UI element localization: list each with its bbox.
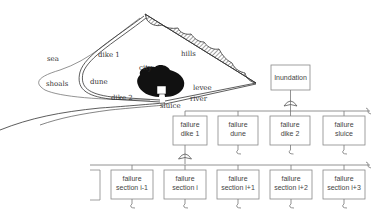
svg-text:failure: failure xyxy=(122,175,141,182)
level2-item-section-i+2: failure section i+2 xyxy=(270,165,312,208)
svg-text:dune: dune xyxy=(230,130,246,137)
label-levee: levee xyxy=(193,84,212,92)
svg-text:dike 2: dike 2 xyxy=(281,130,300,137)
label-dike-2: dike 2 xyxy=(111,94,133,102)
level1-item-dike2: failure dike 2 xyxy=(270,111,310,154)
svg-text:failure: failure xyxy=(228,175,247,182)
svg-text:failure: failure xyxy=(334,175,353,182)
continuation-icon xyxy=(290,199,294,208)
svg-text:section i-1: section i-1 xyxy=(116,184,148,191)
svg-text:failure: failure xyxy=(175,175,194,182)
svg-text:section i+2: section i+2 xyxy=(274,184,308,191)
label-sea: sea xyxy=(47,55,59,63)
svg-text:failure: failure xyxy=(281,175,300,182)
svg-text:section i: section i xyxy=(172,184,198,191)
label-river: river xyxy=(190,95,208,103)
svg-text:failure: failure xyxy=(228,121,247,128)
continuation-icon xyxy=(237,145,241,154)
continuation-icon xyxy=(237,199,241,208)
svg-text:section i+1: section i+1 xyxy=(221,184,255,191)
label-shoals: shoals xyxy=(46,80,69,88)
label-sluice: sluice xyxy=(160,102,181,110)
label-dune: dune xyxy=(90,78,108,86)
continuation-icon xyxy=(184,199,188,208)
continuation-icon xyxy=(131,199,135,208)
level2-item-section-i: failure section i xyxy=(164,165,206,208)
level2-item-section-i+3: failure section i+3 xyxy=(323,165,365,208)
label-city: city xyxy=(139,64,152,72)
diagram-canvas: sea dike 1 hills shoals dune city levee … xyxy=(0,0,387,224)
svg-text:failure: failure xyxy=(334,121,353,128)
svg-text:section i+3: section i+3 xyxy=(327,184,361,191)
svg-text:dike 1: dike 1 xyxy=(181,130,200,137)
continuation-icon xyxy=(343,199,347,208)
continuation-icon xyxy=(343,145,347,154)
level2-item-section-i-1: failure section i-1 xyxy=(111,165,153,208)
continuation-icon xyxy=(289,145,293,154)
level1-item-sluice: failure sluice xyxy=(323,111,365,154)
label-dike-1: dike 1 xyxy=(98,51,120,59)
level1-item-dune: failure dune xyxy=(218,111,258,154)
top-event-label: Inundation xyxy=(274,74,307,81)
level1-item-dike1: failure dune dike 1 xyxy=(173,111,207,164)
partial-box-left xyxy=(90,170,100,200)
svg-text:failure: failure xyxy=(280,121,299,128)
svg-text:sluice: sluice xyxy=(335,130,353,137)
fault-tree: Inundation failure dune dike 1 failure d… xyxy=(90,65,371,208)
label-hills: hills xyxy=(181,50,196,58)
sluice-square xyxy=(157,86,166,94)
coastal-map: sea dike 1 hills shoals dune city levee … xyxy=(0,14,256,130)
svg-text:failure: failure xyxy=(180,121,199,128)
level2-item-section-i+1: failure section i+1 xyxy=(217,165,259,208)
